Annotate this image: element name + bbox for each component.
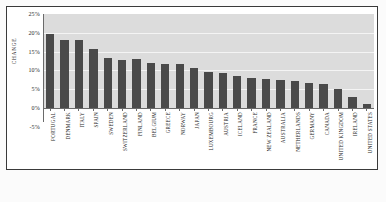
bar-slot xyxy=(115,14,129,108)
bar-series xyxy=(43,14,374,108)
bar xyxy=(132,59,140,108)
x-label-slot: UNITED STATES xyxy=(360,110,374,168)
x-label-slot: ICELAND xyxy=(230,110,244,168)
bar xyxy=(233,76,241,108)
x-axis-category-label: BELGIUM xyxy=(151,112,157,137)
x-label-slot: FINLAND xyxy=(129,110,143,168)
x-label-slot: UNITED KINGDOM xyxy=(331,110,345,168)
x-axis-category-label: AUSTRIA xyxy=(223,112,229,136)
x-label-slot: FRANCE xyxy=(244,110,258,168)
y-axis-tick-label: 25% xyxy=(28,11,40,17)
bar-slot xyxy=(345,14,359,108)
bar-slot xyxy=(158,14,172,108)
bar xyxy=(75,40,83,108)
x-axis-category-label: UNITED STATES xyxy=(367,112,373,153)
x-axis-category-label: SWITZERLAND xyxy=(122,112,128,151)
bar xyxy=(176,64,184,108)
bar xyxy=(219,73,227,108)
x-label-slot: DENMARK xyxy=(57,110,71,168)
y-axis-tick-label: 5% xyxy=(32,86,40,92)
bar xyxy=(104,58,112,108)
x-axis-category-label: GREECE xyxy=(165,112,171,133)
bar-slot xyxy=(273,14,287,108)
bar-slot xyxy=(302,14,316,108)
x-label-slot: SWEDEN xyxy=(101,110,115,168)
x-label-slot: SPAIN xyxy=(86,110,100,168)
bar xyxy=(46,34,54,108)
x-axis-category-label: NETHERLANDS xyxy=(295,112,301,152)
bar-slot xyxy=(101,14,115,108)
x-axis-category-label: ITALY xyxy=(79,112,85,128)
bar xyxy=(305,83,313,108)
x-axis-category-label: NORWAY xyxy=(180,112,186,135)
bar-slot xyxy=(173,14,187,108)
bar-slot xyxy=(244,14,258,108)
x-axis-category-label: SWEDEN xyxy=(108,112,114,135)
bar-slot xyxy=(43,14,57,108)
bar xyxy=(60,40,68,108)
x-label-slot: LUXEMBOURG xyxy=(201,110,215,168)
bar xyxy=(190,68,198,108)
x-label-slot: GERMANY xyxy=(302,110,316,168)
x-label-slot: AUSTRALIA xyxy=(273,110,287,168)
bar xyxy=(334,89,342,108)
bar-slot xyxy=(187,14,201,108)
bar-slot xyxy=(230,14,244,108)
y-axis-tick-labels: 25%20%15%10%5%0%-5% xyxy=(14,14,40,122)
x-label-slot: IRELAND xyxy=(345,110,359,168)
x-label-slot: GREECE xyxy=(158,110,172,168)
x-label-slot: NORWAY xyxy=(173,110,187,168)
x-axis-category-label: CANADA xyxy=(324,112,330,135)
bar xyxy=(118,60,126,109)
x-axis-category-label: LUXEMBOURG xyxy=(208,112,214,150)
bar xyxy=(262,79,270,108)
y-axis-tick-label: -5% xyxy=(29,124,40,130)
bar-slot xyxy=(288,14,302,108)
x-axis-category-labels: PORTUGALDENMARKITALYSPAINSWEDENSWITZERLA… xyxy=(43,110,374,168)
x-axis-category-label: UNITED KINGDOM xyxy=(338,112,344,160)
bar-slot xyxy=(201,14,215,108)
x-axis-category-label: GERMANY xyxy=(309,112,315,140)
x-label-slot: NETHERLANDS xyxy=(288,110,302,168)
x-axis-category-label: IRELAND xyxy=(352,112,358,136)
bar xyxy=(89,49,97,108)
bar-slot xyxy=(331,14,345,108)
bar-slot xyxy=(216,14,230,108)
x-axis-category-label: PORTUGAL xyxy=(50,112,56,141)
bar-slot xyxy=(129,14,143,108)
y-axis-tick-label: 0% xyxy=(32,105,40,111)
bar xyxy=(247,78,255,108)
bar-slot xyxy=(259,14,273,108)
y-axis-tick-label: 20% xyxy=(28,30,40,36)
bar-slot xyxy=(57,14,71,108)
x-label-slot: CANADA xyxy=(316,110,330,168)
bar xyxy=(319,84,327,108)
x-axis-category-label: SPAIN xyxy=(93,112,99,128)
x-label-slot: SWITZERLAND xyxy=(115,110,129,168)
bar xyxy=(161,64,169,108)
bar xyxy=(348,97,356,108)
bar-slot xyxy=(360,14,374,108)
bar xyxy=(276,80,284,108)
x-label-slot: PORTUGAL xyxy=(43,110,57,168)
y-axis-tick-label: 15% xyxy=(28,49,40,55)
bar xyxy=(291,81,299,108)
x-axis-category-label: NEW ZEALAND xyxy=(266,112,272,152)
x-axis-category-label: DENMARK xyxy=(65,112,71,140)
bar-slot xyxy=(86,14,100,108)
bar-slot xyxy=(316,14,330,108)
bar xyxy=(147,63,155,108)
x-label-slot: NEW ZEALAND xyxy=(259,110,273,168)
x-label-slot: AUSTRIA xyxy=(216,110,230,168)
x-label-slot: BELGIUM xyxy=(144,110,158,168)
x-axis-category-label: FRANCE xyxy=(252,112,258,134)
y-axis-tick-label: 10% xyxy=(28,67,40,73)
bar xyxy=(204,72,212,108)
x-axis-category-label: FINLAND xyxy=(137,112,143,136)
bar-slot xyxy=(72,14,86,108)
x-axis-category-label: AUSTRALIA xyxy=(280,112,286,143)
bar-slot xyxy=(144,14,158,108)
x-axis-category-label: JAPAN xyxy=(194,112,200,129)
bar-chart: CHANGE 25%20%15%10%5%0%-5% PORTUGALDENMA… xyxy=(0,0,386,202)
x-axis-category-label: ICELAND xyxy=(237,112,243,136)
